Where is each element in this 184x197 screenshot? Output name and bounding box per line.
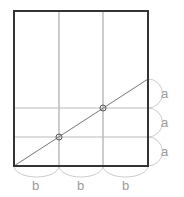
grid-lines [14, 11, 148, 166]
label-b2: b [77, 178, 84, 193]
arc-b3 [103, 166, 148, 177]
label-b3: b [122, 178, 129, 193]
label-a1: a [161, 86, 169, 101]
bottom-arcs [14, 166, 148, 177]
proportion-diagram: a a a b b b [0, 0, 184, 197]
label-a2: a [161, 115, 169, 130]
arc-b1 [14, 166, 59, 177]
outer-frame [14, 11, 148, 166]
arc-b2 [59, 166, 103, 177]
label-b1: b [32, 178, 39, 193]
diagonal-line [14, 79, 148, 166]
label-a3: a [161, 144, 169, 159]
